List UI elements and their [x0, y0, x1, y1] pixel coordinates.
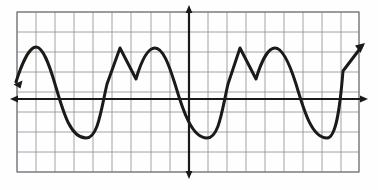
graph-svg [0, 0, 378, 190]
waveform-figure [0, 0, 378, 190]
